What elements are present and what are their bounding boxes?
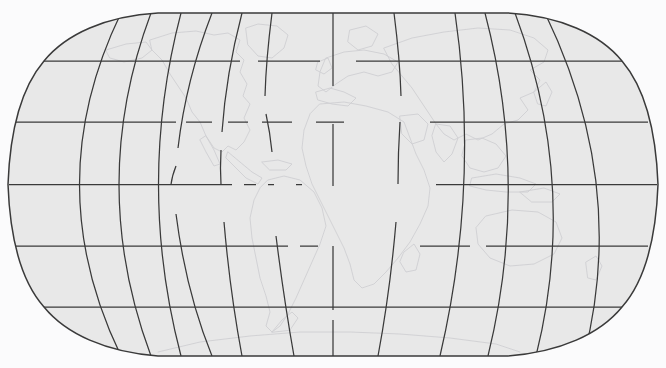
world-map-canvas xyxy=(0,0,666,368)
world-map-figure xyxy=(0,0,666,368)
